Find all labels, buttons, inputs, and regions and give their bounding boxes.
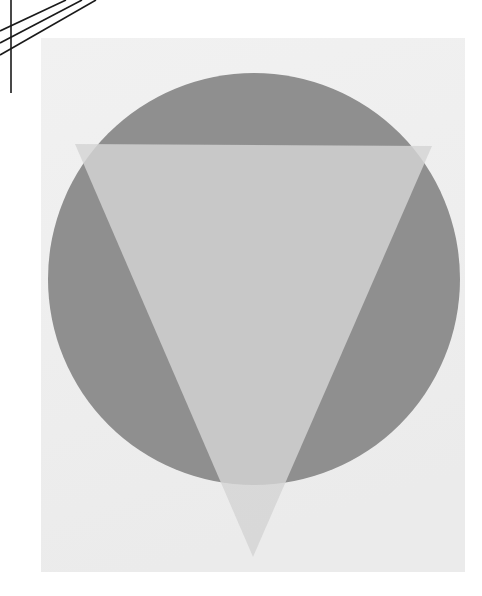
composition-svg <box>0 0 482 596</box>
artwork-scan-canvas: Scanned geometric composition: gray circ… <box>0 0 482 596</box>
